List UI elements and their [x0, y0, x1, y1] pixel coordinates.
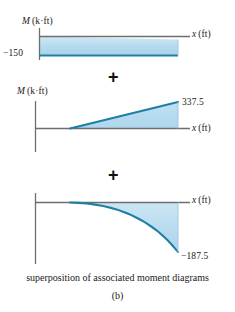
figure-caption: superposition of associated moment diagr…: [0, 272, 235, 285]
panel1-moment-area: [39, 37, 178, 56]
panel3-plot: [0, 190, 235, 270]
panel3-moment-area: [70, 203, 178, 253]
operator-plus-2: +: [108, 166, 119, 184]
panel2-plot: [0, 84, 235, 158]
moment-diagram-figure: M(k·ft) −150 x(ft): [0, 0, 235, 312]
panel-parabolic-moment: −187.5 x(ft): [0, 190, 235, 270]
panel-linear-moment: M(k·ft) 337.5 x(ft): [0, 84, 235, 158]
figure-sub-caption: (b): [0, 290, 235, 303]
